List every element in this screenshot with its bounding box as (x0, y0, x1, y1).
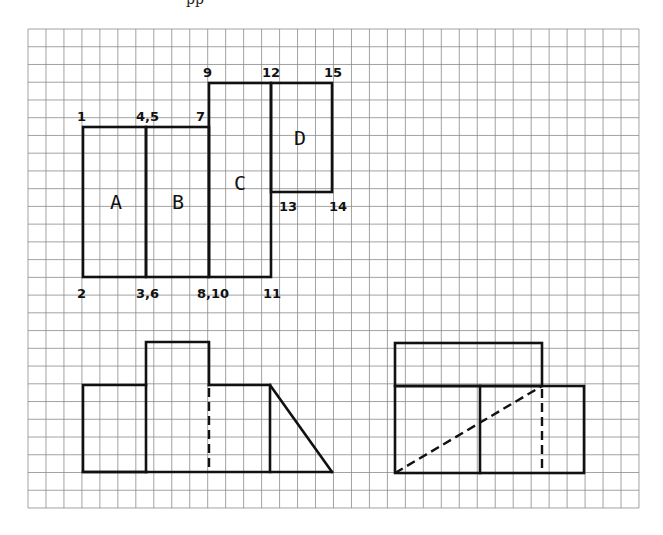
front-view-right-block (209, 385, 270, 472)
orthographic-drawing-sheet: pp ABCD 14,5791215131423,68,1011 (0, 0, 663, 535)
side-view-upper-block (395, 343, 542, 386)
vertex-label: 11 (263, 286, 281, 301)
face-label-b: B (172, 190, 184, 214)
vertex-label: 15 (324, 65, 342, 80)
vertex-label: 4,5 (136, 109, 159, 124)
vertex-label: 8,10 (197, 286, 229, 301)
vertex-label: 13 (279, 199, 297, 214)
cropped-heading-fragment: pp (186, 0, 204, 7)
face-label-d: D (294, 126, 306, 150)
vertex-label: 7 (196, 109, 205, 124)
face-label-c: C (234, 171, 246, 195)
vertex-label: 3,6 (136, 286, 159, 301)
front-view-tall-block (146, 342, 209, 472)
face-label-a: A (110, 190, 122, 214)
front-view-left-block (83, 385, 146, 472)
vertex-label: 9 (203, 65, 212, 80)
vertex-label: 12 (262, 65, 280, 80)
side-view-hidden-diagonal (395, 386, 542, 473)
vertex-label: 2 (77, 286, 86, 301)
graph-paper-grid (28, 29, 639, 508)
vertex-label: 1 (77, 109, 86, 124)
vertex-label: 14 (329, 199, 347, 214)
